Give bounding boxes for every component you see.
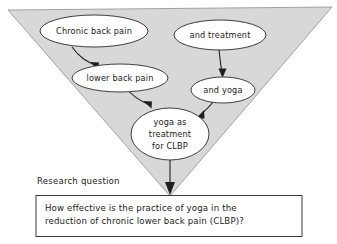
research-question-caption: Research question [37, 176, 120, 186]
node-yoga-as-treatment-line1: yoga as [153, 117, 186, 127]
research-question-line1: How effective is the practice of yoga in… [45, 203, 237, 213]
research-question-box[interactable]: How effective is the practice of yoga in… [36, 196, 302, 237]
node-chronic-back-pain-label: Chronic back pain [56, 26, 132, 36]
funnel-concept-diagram: Chronic back pain and treatment lower ba… [0, 0, 337, 244]
node-and-treatment[interactable]: and treatment [174, 20, 266, 50]
node-and-treatment-label: and treatment [189, 30, 251, 40]
node-chronic-back-pain[interactable]: Chronic back pain [40, 15, 148, 47]
node-yoga-as-treatment-for-clbp[interactable]: yoga as treatment for CLBP [131, 108, 209, 160]
node-lower-back-pain[interactable]: lower back pain [72, 64, 168, 92]
node-lower-back-pain-label: lower back pain [87, 73, 154, 83]
node-yoga-as-treatment-line3: for CLBP [152, 141, 188, 151]
node-yoga-as-treatment-line2: treatment [149, 129, 192, 139]
node-and-yoga[interactable]: and yoga [191, 77, 255, 103]
research-question-line2: reduction of chronic lower back pain (CL… [45, 216, 244, 226]
node-and-yoga-label: and yoga [203, 85, 242, 95]
diagram-canvas: Chronic back pain and treatment lower ba… [0, 0, 337, 244]
